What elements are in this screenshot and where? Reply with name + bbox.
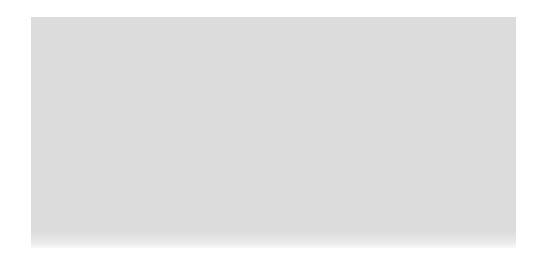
page-canvas (0, 0, 547, 267)
gray-dither-block (31, 17, 516, 248)
